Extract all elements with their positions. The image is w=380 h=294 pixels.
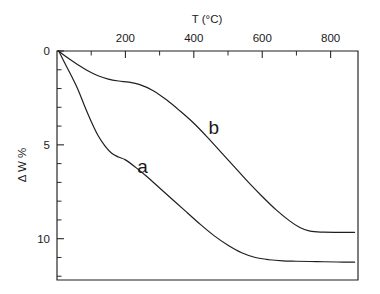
y-tick-label-5: 5 — [44, 139, 50, 151]
y-axis-tick-labels: 0510 — [37, 45, 50, 245]
plot-canvas: 200400600800 0510 T (°C) Δ W % a b — [0, 0, 380, 294]
curve-label-a: a — [137, 156, 148, 177]
x-tick-label-200: 200 — [116, 32, 135, 44]
y-axis-ticks — [57, 51, 64, 276]
x-axis-tick-labels: 200400600800 — [116, 32, 340, 44]
x-axis-ticks — [91, 51, 330, 58]
x-tick-label-600: 600 — [253, 32, 272, 44]
x-axis-title: T (°C) — [192, 13, 223, 25]
y-tick-label-0: 0 — [44, 45, 50, 57]
tga-figure: 200400600800 0510 T (°C) Δ W % a b — [0, 0, 380, 294]
plot-frame — [57, 51, 358, 280]
x-tick-label-800: 800 — [321, 32, 340, 44]
data-curve-a — [59, 51, 355, 262]
x-tick-label-400: 400 — [184, 32, 203, 44]
curve-label-b: b — [208, 117, 219, 138]
y-tick-label-10: 10 — [37, 233, 50, 245]
data-curve-b — [59, 51, 355, 232]
y-axis-title: Δ W % — [16, 148, 28, 183]
